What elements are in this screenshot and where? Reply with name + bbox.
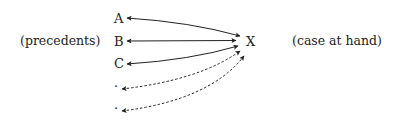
arrow-c-x <box>127 46 238 64</box>
arrow-ellipsis1-x <box>122 51 240 89</box>
arrow-ellipsis2-x <box>122 56 244 111</box>
arrow-a-x <box>127 18 240 36</box>
arrow-b-x <box>127 41 236 42</box>
arrows <box>0 0 395 121</box>
